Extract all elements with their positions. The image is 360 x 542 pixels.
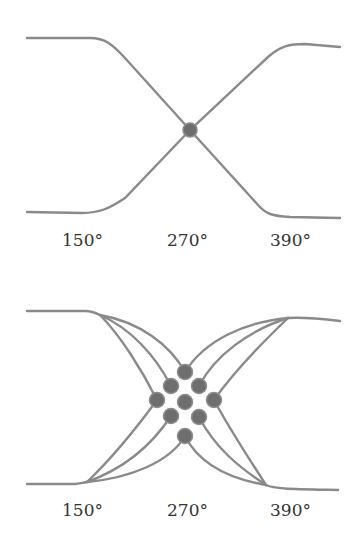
x-label-150: 150° [62, 500, 103, 520]
upper-right-flat [288, 318, 340, 321]
upper-left-flat [27, 311, 100, 315]
lower-left-flat [27, 482, 87, 484]
x-label-390: 390° [270, 230, 311, 250]
crossing-point-upper-right [192, 379, 207, 394]
fan-ll-2 [87, 416, 171, 482]
bottom-diagram: 150° 270° 390° [27, 311, 340, 520]
lower-right-flat [266, 485, 338, 490]
crossing-point [183, 123, 197, 137]
fan-ll-3 [87, 400, 157, 482]
crossing-point-lower-left [164, 409, 179, 424]
crossing-point-top [178, 365, 193, 380]
x-label-270: 270° [167, 500, 208, 520]
x-label-150: 150° [62, 230, 103, 250]
x-label-390: 390° [270, 500, 311, 520]
crossing-point-lower-right [192, 410, 207, 425]
crossing-point-bottom [178, 429, 193, 444]
crossing-point-right [207, 393, 222, 408]
fan-ul-1 [100, 315, 185, 372]
x-label-270: 270° [167, 230, 208, 250]
crossing-point-left [150, 393, 165, 408]
diagram-canvas: 150° 270° 390° 15 [0, 0, 360, 542]
crossing-point-center [178, 395, 193, 410]
crossing-point-upper-left [164, 379, 179, 394]
fan-ul-3 [100, 315, 157, 400]
fan-ur-3 [214, 318, 288, 400]
top-diagram: 150° 270° 390° [27, 38, 340, 250]
